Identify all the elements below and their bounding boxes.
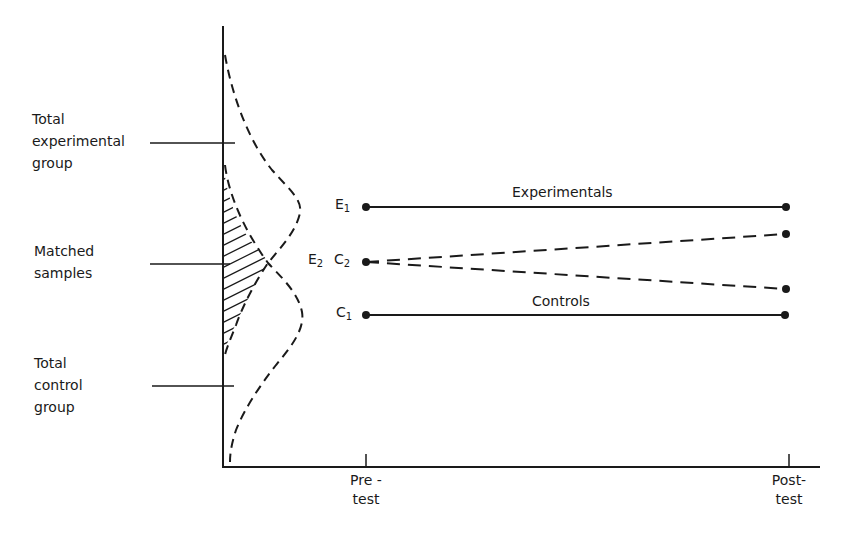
point-label-e1: E1	[335, 196, 350, 214]
label-total-experimental-group: Total experimental group	[32, 108, 172, 174]
label-line: group	[34, 396, 174, 418]
e1-posttest-point	[782, 203, 790, 211]
c1-pretest-point	[362, 311, 370, 319]
label-line: Total	[34, 352, 174, 374]
e2-matched-line	[366, 234, 786, 262]
e2-posttest-point	[782, 230, 790, 238]
c2-posttest-point	[782, 285, 790, 293]
x-label-posttest: Post- test	[754, 471, 824, 509]
label-line: Total	[32, 108, 172, 130]
point-subscript: 1	[344, 203, 350, 214]
label-line: samples	[34, 262, 174, 284]
tick-label-line: Post-	[754, 471, 824, 490]
point-subscript: 2	[317, 258, 323, 269]
series-label-controls: Controls	[532, 293, 590, 309]
label-line: experimental	[32, 130, 172, 152]
label-line: control	[34, 374, 174, 396]
tick-label-line: test	[331, 490, 401, 509]
point-letter: C	[334, 251, 344, 267]
overlap-hatching	[200, 130, 300, 378]
control-distribution-curve	[225, 165, 302, 462]
point-label-c2: C2	[334, 251, 350, 269]
series-label-experimentals: Experimentals	[512, 184, 613, 200]
point-subscript: 1	[346, 311, 352, 322]
c2-matched-line	[366, 262, 786, 289]
point-subscript: 2	[344, 258, 350, 269]
point-label-e2: E2	[308, 251, 323, 269]
x-label-pretest: Pre - test	[331, 471, 401, 509]
point-letter: C	[336, 304, 346, 320]
c1-posttest-point	[781, 311, 789, 319]
point-label-c1: C1	[336, 304, 352, 322]
tick-label-line: test	[754, 490, 824, 509]
e1-pretest-point	[362, 203, 370, 211]
label-line: group	[32, 152, 172, 174]
e2c2-pretest-point	[362, 258, 370, 266]
point-letter: E	[308, 251, 317, 267]
experimental-distribution-curve	[225, 55, 300, 355]
point-letter: E	[335, 196, 344, 212]
tick-label-line: Pre -	[331, 471, 401, 490]
label-line: Matched	[34, 240, 174, 262]
label-total-control-group: Total control group	[34, 352, 174, 418]
label-matched-samples: Matched samples	[34, 240, 174, 284]
